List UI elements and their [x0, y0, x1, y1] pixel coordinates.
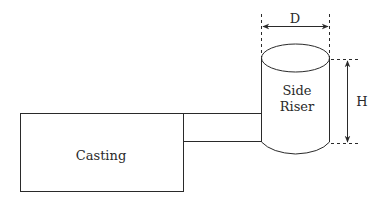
casting-label: Casting	[76, 148, 126, 163]
side-riser-diagram: Casting Side Riser D H	[0, 0, 380, 204]
riser-neck	[184, 114, 262, 142]
riser-label-line1: Side	[282, 83, 311, 98]
diameter-label: D	[290, 11, 300, 26]
riser-label-line2: Riser	[280, 99, 315, 114]
height-dimension	[331, 60, 358, 144]
height-label: H	[356, 94, 367, 109]
